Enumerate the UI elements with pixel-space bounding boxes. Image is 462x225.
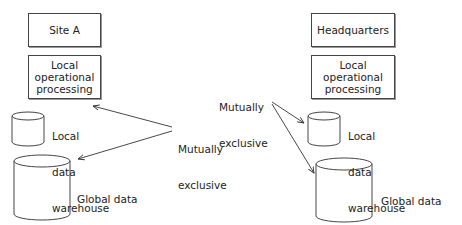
headquarters-label: Headquarters	[317, 24, 389, 36]
global-dw-label-right: Global data warehouse (staging area)	[381, 171, 455, 225]
mutually-exclusive-label-right: Mutually exclusive	[219, 77, 268, 173]
ops-label-left-3: processing	[36, 83, 93, 95]
local-dw-cylinder-left	[12, 112, 44, 146]
local-dw-cylinder-right	[308, 112, 340, 146]
global-dw-left-l1: Global data	[77, 193, 151, 205]
global-dw-right-l1: Global data	[381, 195, 455, 207]
ops-label-right-3: processing	[325, 83, 382, 95]
ops-label-left-1: Local	[51, 59, 78, 71]
ops-label-right-1: Local	[339, 59, 366, 71]
ops-label-right-2: operational	[323, 71, 383, 83]
site-a-box: Site A	[28, 13, 101, 47]
annot-right-l2: exclusive	[219, 137, 268, 149]
annot-left-l2: exclusive	[178, 179, 227, 191]
local-dw-left-l1: Local	[52, 130, 109, 142]
ops-label-left-2: operational	[35, 71, 95, 83]
local-dw-right-l1: Local	[348, 130, 405, 142]
diagram-canvas: Site A Local operational processing Loca…	[0, 0, 462, 225]
headquarters-box: Headquarters	[311, 13, 395, 47]
annot-right-l1: Mutually	[219, 101, 268, 113]
site-a-label: Site A	[49, 24, 80, 36]
local-ops-box-left: Local operational processing	[28, 55, 101, 99]
local-ops-box-right: Local operational processing	[311, 55, 395, 99]
global-dw-label-left: Global data warehouse (staging area)	[77, 169, 151, 225]
